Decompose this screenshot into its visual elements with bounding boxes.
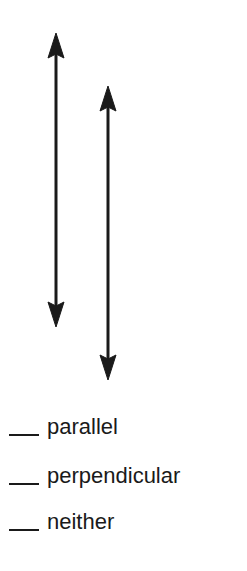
answer-blank[interactable] <box>9 483 39 485</box>
option-neither[interactable]: neither <box>9 509 114 535</box>
double-arrow-lines-graphic <box>0 0 247 400</box>
line-a-double-arrow-icon <box>48 33 64 327</box>
option-label: neither <box>47 509 114 534</box>
option-label: parallel <box>47 414 118 439</box>
answer-blank[interactable] <box>9 529 39 531</box>
lines-figure <box>0 0 247 400</box>
option-label: perpendicular <box>47 463 180 488</box>
option-perpendicular[interactable]: perpendicular <box>9 463 180 489</box>
answer-blank[interactable] <box>9 434 39 436</box>
line-b-double-arrow-icon <box>100 86 116 380</box>
option-parallel[interactable]: parallel <box>9 414 118 440</box>
